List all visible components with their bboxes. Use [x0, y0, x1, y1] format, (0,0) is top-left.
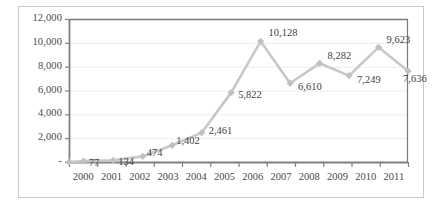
y-axis-label: 12,000	[18, 12, 70, 23]
y-axis-label: 2,000	[18, 131, 70, 142]
data-point-label: 7,636	[403, 73, 427, 84]
data-point-label: 5,822	[238, 89, 262, 100]
data-point-label: 1,402	[176, 135, 200, 146]
data-markers	[65, 38, 411, 166]
x-axis-label: 2005	[208, 171, 240, 182]
data-point-label: 2,461	[209, 125, 233, 136]
x-axis-label: 2004	[180, 171, 212, 182]
data-point-label: 134	[118, 156, 134, 167]
y-axis-label: 4,000	[18, 107, 70, 118]
data-point-label: 7,249	[357, 74, 381, 85]
x-axis-label: 2007	[265, 171, 297, 182]
data-point-label: 474	[147, 147, 163, 158]
x-axis-label: 2008	[293, 171, 325, 182]
data-line	[69, 41, 408, 162]
data-point-label: 77	[89, 157, 100, 168]
y-axis-label: 8,000	[18, 60, 70, 71]
x-axis-label: 2009	[321, 171, 353, 182]
x-axis-label: 2001	[95, 171, 127, 182]
data-point-label: 9,623	[387, 34, 411, 45]
x-axis-label: 2010	[350, 171, 382, 182]
x-axis-label: 2011	[378, 171, 410, 182]
y-axis-label: -	[18, 155, 70, 166]
data-point-label: 8,282	[328, 50, 352, 61]
x-axis-label: 2006	[237, 171, 269, 182]
y-axis-label: 10,000	[18, 36, 70, 47]
data-point-label: 10,128	[269, 27, 298, 38]
y-axis-label: 6,000	[18, 84, 70, 95]
x-axis-label: 2003	[152, 171, 184, 182]
x-axis-label: 2002	[124, 171, 156, 182]
data-point-label: 6,610	[298, 81, 322, 92]
x-axis-label: 2000	[67, 171, 99, 182]
